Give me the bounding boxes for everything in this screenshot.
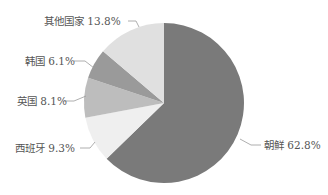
label-uk: 英国 8.1% xyxy=(17,95,67,107)
label-korea: 韩国 6.1% xyxy=(25,55,75,67)
pie-slices xyxy=(84,23,244,183)
label-north-korea: 朝鲜 62.8% xyxy=(264,139,321,151)
leader-line-spain xyxy=(80,142,95,148)
leader-line-korea xyxy=(74,61,94,68)
label-spain: 西班牙 9.3% xyxy=(15,142,75,154)
leader-line-uk xyxy=(64,96,86,101)
leader-line-north-korea xyxy=(240,139,261,145)
label-others: 其他国家 13.8% xyxy=(44,15,121,27)
leader-line-others xyxy=(128,21,139,27)
